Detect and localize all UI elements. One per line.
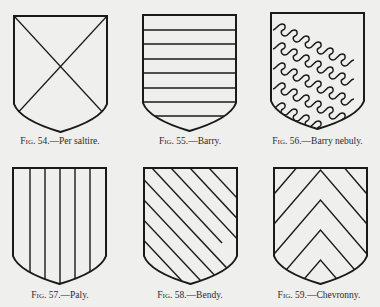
caption-prefix: Fig. <box>159 136 174 146</box>
caption-text: 55.—Barry. <box>176 136 221 146</box>
caption-text: 58.—Bendy. <box>175 290 223 300</box>
shield-per-saltire <box>14 16 107 133</box>
caption-fig-57: Fig. 57.—Paly. <box>0 290 120 300</box>
caption-prefix: Fig. <box>157 290 172 300</box>
caption-fig-55: Fig. 55.—Barry. <box>130 136 250 146</box>
caption-prefix: Fig. <box>20 136 35 146</box>
caption-fig-54: Fig. 54.—Per saltire. <box>0 136 120 146</box>
caption-text: 59.—Chevronny. <box>295 290 360 300</box>
caption-text: 56.—Barry nebuly. <box>290 136 363 146</box>
caption-prefix: Fig. <box>278 290 293 300</box>
shield-bendy <box>144 168 237 285</box>
caption-text: 54.—Per saltire. <box>38 136 100 146</box>
shield-chevronny <box>274 168 367 285</box>
caption-prefix: Fig. <box>272 136 287 146</box>
caption-fig-59: Fig. 59.—Chevronny. <box>258 290 380 300</box>
shield-barry <box>143 15 236 132</box>
caption-fig-58: Fig. 58.—Bendy. <box>130 290 250 300</box>
shield-barry-nebuly <box>271 13 364 130</box>
caption-fig-56: Fig. 56.—Barry nebuly. <box>255 136 380 146</box>
caption-prefix: Fig. <box>31 290 46 300</box>
caption-text: 57.—Paly. <box>49 290 89 300</box>
shield-paly <box>13 168 106 285</box>
